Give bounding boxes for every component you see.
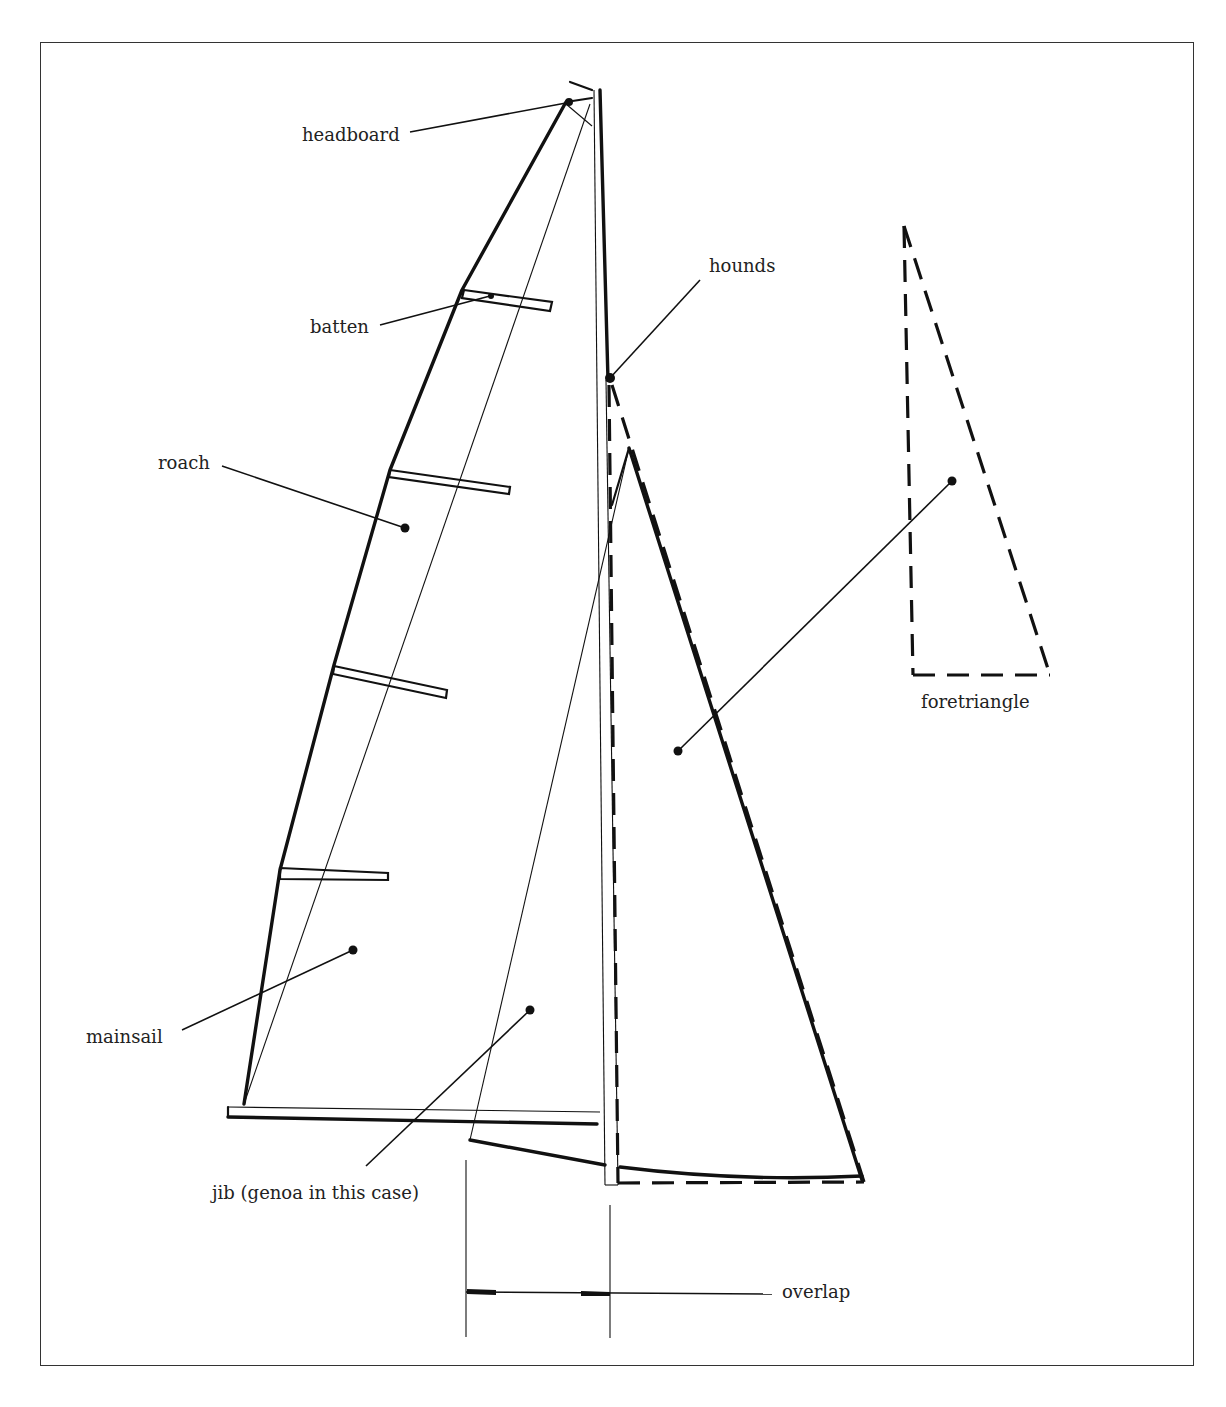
label-roach: roach [158,452,210,473]
label-batten: batten [310,316,369,337]
sail-plan-diagram: headboard batten hounds roach foretriang… [0,0,1226,1407]
mast [594,90,618,1185]
label-mainsail: mainsail [86,1026,163,1047]
label-jib: jib (genoa in this case) [210,1182,419,1203]
label-foretriangle: foretriangle [921,691,1030,712]
mainsail-reference-line [244,104,590,1104]
overlap-dimension [466,1160,772,1338]
battens [280,290,552,880]
boom [228,1107,600,1124]
leaders [182,103,957,1166]
foretriangle-figure [904,226,1050,675]
label-overlap: overlap [782,1281,850,1302]
mainsail-leech [244,102,566,1104]
label-headboard: headboard [302,124,400,145]
headboard-shape [565,82,592,126]
label-hounds: hounds [709,255,775,276]
